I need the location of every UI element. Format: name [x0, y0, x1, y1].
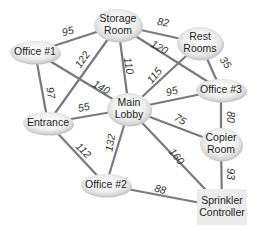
edge-weight-label: 112 — [74, 140, 94, 160]
edge-weight-label: 80 — [225, 111, 237, 123]
node-label: Entrance — [27, 116, 69, 128]
node-office2: Office #2 — [81, 174, 132, 198]
node-label: Office #1 — [14, 45, 56, 57]
edge-weight-label: 160 — [167, 146, 188, 167]
node-label: Lobby — [115, 108, 144, 120]
node-lobby: MainLobby — [107, 93, 152, 127]
edge-weight-label: 55 — [77, 100, 91, 114]
node-copier: CopierRoom — [200, 128, 243, 162]
node-label: Copier — [206, 131, 237, 143]
node-entrance: Entrance — [23, 112, 74, 136]
node-label: Room — [207, 143, 235, 155]
node-office3: Office #3 — [196, 79, 247, 103]
node-sprinkler: SprinklerController — [197, 189, 247, 225]
node-label: Storage — [100, 12, 137, 24]
node-label: Room — [104, 24, 132, 36]
node-label: Rest — [189, 30, 211, 42]
node-rest: RestRooms — [177, 27, 224, 61]
nodes-layer: StorageRoomRestRoomsOffice #1Office #3En… — [10, 9, 247, 225]
edge-weight-label: 95 — [164, 83, 179, 98]
node-label: Rooms — [183, 42, 216, 54]
edge-weight-label: 82 — [156, 15, 170, 29]
node-label: Main — [118, 96, 141, 108]
edge-weight-label: 35 — [218, 54, 235, 71]
edge-weight-label: 97 — [44, 86, 58, 101]
node-label: Office #2 — [85, 178, 127, 190]
node-office1: Office #1 — [10, 41, 61, 65]
node-label: Controller — [199, 206, 245, 218]
node-storage: StorageRoom — [94, 9, 143, 43]
edge-weight-label: 132 — [102, 133, 117, 152]
edge-weight-label: 75 — [173, 111, 189, 127]
edge-weight-label: 140 — [91, 77, 112, 96]
graph-diagram: 9582120122110971403511595557580112132160… — [0, 0, 259, 231]
node-label: Sprinkler — [201, 194, 243, 206]
edge-weight-label: 95 — [60, 23, 75, 38]
edge-weight-label: 115 — [144, 65, 164, 86]
edge-weight-label: 93 — [225, 168, 237, 180]
edge-weight-label: 120 — [149, 37, 170, 56]
node-label: Office #3 — [200, 83, 242, 95]
